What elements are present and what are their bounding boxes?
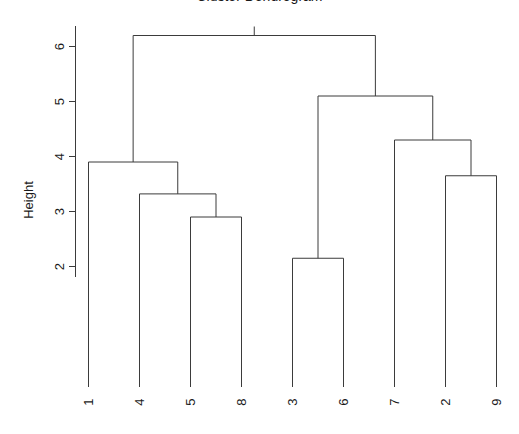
y-axis-ticks: [69, 47, 76, 267]
leaf-labels: 1 4 5 8 3 6 7 2 9: [81, 398, 504, 405]
y-tick-label-4: 4: [52, 153, 67, 160]
leaf-label-6: 6: [336, 398, 351, 405]
leaf-label-5: 5: [183, 398, 198, 405]
leaf-label-2: 2: [438, 398, 453, 405]
x-axis-ticks: [89, 379, 497, 387]
y-tick-label-2: 2: [52, 263, 67, 270]
y-tick-label-5: 5: [52, 98, 67, 105]
leaf-label-4: 4: [132, 398, 147, 405]
y-tick-label-6: 6: [52, 43, 67, 50]
leaf-label-1: 1: [81, 398, 96, 405]
leaf-label-8: 8: [234, 398, 249, 405]
y-axis-tick-labels: 6 5 4 3 2: [52, 43, 67, 270]
y-axis-title: Height: [21, 181, 36, 219]
dendrogram-tree: [89, 27, 497, 380]
y-tick-label-3: 3: [52, 208, 67, 215]
leaf-label-3: 3: [285, 398, 300, 405]
leaf-label-7: 7: [387, 398, 402, 405]
leaf-label-9: 9: [489, 398, 504, 405]
dendrogram-canvas: 6 5 4 3 2 Height 1 4 5 8 3 6: [0, 0, 519, 434]
dendrogram-plot: Cluster Dendrogram 6 5 4 3 2 Height: [0, 0, 519, 434]
